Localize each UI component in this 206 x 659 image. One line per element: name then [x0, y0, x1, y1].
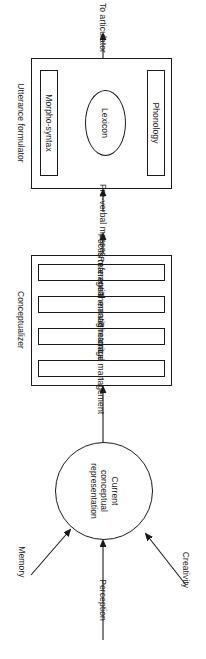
creativity-text: Creativity — [182, 552, 191, 588]
arrow-creativity-to-representation — [146, 534, 186, 585]
lexicon-text: Lexicon — [101, 108, 110, 138]
utterance-formulator-text: Utterance formulator — [17, 83, 26, 162]
language-production-diagram: To articulator Utterance formulator Morp… — [0, 0, 206, 659]
arrow-memory-to-representation — [31, 530, 70, 575]
phonology-text: Phonology — [152, 102, 161, 143]
conceptualizer-text: Conceptualizer — [17, 291, 26, 349]
perception-text: Perception — [99, 579, 108, 621]
rhetorical-management-text: Rhetorical management — [97, 322, 106, 414]
to-articulator-text: To articulator — [99, 3, 108, 53]
memory-text: Memory — [18, 546, 27, 577]
morpho-syntax-text: Morpho-syntax — [45, 94, 54, 152]
current-conceptual-representation-text: Current conceptual representation — [88, 463, 120, 519]
